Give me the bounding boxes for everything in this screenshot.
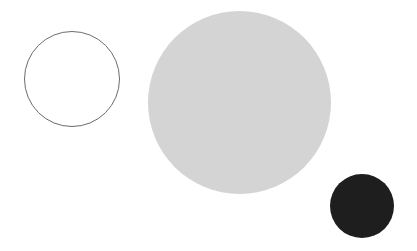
small-dark-circle xyxy=(330,174,394,238)
outline-circle xyxy=(24,31,120,127)
large-gray-circle xyxy=(148,11,331,194)
